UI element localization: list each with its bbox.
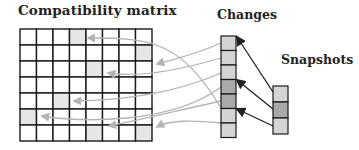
matrix-cell [20, 93, 37, 109]
matrix-cell [119, 77, 136, 93]
matrix-cell [20, 109, 37, 125]
matrix-cell [70, 61, 87, 77]
change-cell [221, 65, 236, 80]
change-cell [221, 51, 236, 66]
matrix-cell [86, 29, 103, 45]
snapshot-arrow [237, 109, 273, 126]
matrix-cell [103, 29, 120, 45]
matrix-cell [37, 45, 54, 61]
matrix-cell [119, 45, 136, 61]
matrix-cell [37, 77, 54, 93]
change-cell [221, 80, 236, 95]
matrix-cell [53, 93, 70, 109]
change-cell [221, 123, 236, 138]
matrix-cell [53, 45, 70, 61]
matrix-cell [37, 125, 54, 141]
matrix-cell [86, 77, 103, 93]
matrix-cell [103, 125, 120, 141]
snapshot-cell [273, 118, 288, 134]
matrix-cell [86, 61, 103, 77]
matrix-cell [20, 61, 37, 77]
matrix-cell [53, 29, 70, 45]
diagram-canvas [0, 0, 359, 150]
change-cell [221, 36, 236, 51]
matrix-cell [53, 109, 70, 125]
matrix-cell [20, 77, 37, 93]
matrix-cell [119, 125, 136, 141]
change-cell [221, 109, 236, 124]
matrix-cell [136, 125, 153, 141]
snapshot-cell [273, 102, 288, 118]
matrix-cell [20, 29, 37, 45]
matrix-cell [103, 77, 120, 93]
matrix-cell [136, 45, 153, 61]
matrix-cell [70, 45, 87, 61]
matrix-cell [103, 109, 120, 125]
matrix-cell [119, 29, 136, 45]
matrix-cell [70, 77, 87, 93]
matrix-cell [20, 125, 37, 141]
snapshot-arrows [237, 37, 273, 126]
compatibility-matrix [20, 29, 152, 141]
matrix-cell [119, 93, 136, 109]
change-arrow [157, 121, 221, 127]
matrix-cell [103, 93, 120, 109]
snapshots-column [273, 86, 288, 134]
matrix-cell [20, 45, 37, 61]
matrix-cell [70, 29, 87, 45]
matrix-cell [86, 109, 103, 125]
snapshot-cell [273, 86, 288, 102]
matrix-cell [37, 61, 54, 77]
matrix-cell [86, 125, 103, 141]
matrix-cell [37, 29, 54, 45]
matrix-cell [70, 109, 87, 125]
matrix-cell [53, 125, 70, 141]
matrix-cell [70, 125, 87, 141]
matrix-cell [53, 77, 70, 93]
matrix-cell [103, 45, 120, 61]
matrix-cell [136, 77, 153, 93]
change-cell [221, 94, 236, 109]
matrix-cell [53, 61, 70, 77]
changes-column [221, 36, 236, 138]
matrix-cell [86, 45, 103, 61]
matrix-cell [37, 93, 54, 109]
